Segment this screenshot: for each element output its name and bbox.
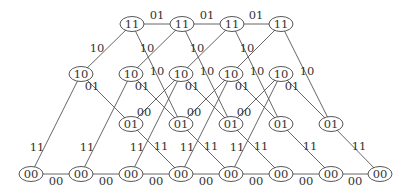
node-label: 01: [274, 117, 289, 131]
state-node-01: 01: [219, 117, 243, 132]
edge-label: 00: [99, 174, 114, 188]
edge-label: 01: [85, 79, 100, 93]
edge-label: 11: [130, 140, 145, 154]
edge-label: 11: [254, 139, 269, 153]
edge-label: 00: [137, 105, 152, 119]
state-node-00: 00: [19, 167, 43, 182]
state-node-10: 10: [169, 67, 193, 82]
state-node-00: 00: [368, 167, 392, 182]
state-node-01: 01: [119, 117, 143, 132]
state-node-10: 10: [69, 67, 93, 82]
state-node-11: 11: [220, 17, 244, 32]
node-label: 00: [74, 167, 89, 181]
edge-label: 00: [348, 174, 363, 188]
node-label: 11: [274, 17, 289, 31]
edge-label: 00: [237, 105, 252, 119]
state-node-00: 00: [219, 167, 243, 182]
edge-label: 00: [299, 174, 314, 188]
state-node-11: 11: [120, 17, 144, 32]
state-node-11: 11: [170, 17, 194, 32]
state-node-01: 01: [269, 117, 293, 132]
state-node-10: 10: [119, 67, 143, 82]
node-label: 00: [174, 167, 189, 181]
edge-label: 01: [185, 79, 200, 93]
edge-label: 11: [303, 139, 318, 153]
edge-label: 01: [150, 8, 165, 22]
edge-label: 11: [154, 139, 169, 153]
edge-label: 01: [235, 79, 250, 93]
edge-label: 00: [49, 174, 64, 188]
node-label: 11: [125, 17, 140, 31]
edge-label: 01: [135, 79, 150, 93]
edge-label: 01: [285, 79, 300, 93]
edge-label: 11: [230, 140, 245, 154]
state-node-10: 10: [269, 67, 293, 82]
state-node-00: 00: [69, 167, 93, 182]
edge-label: 10: [250, 64, 265, 78]
node-label: 00: [373, 167, 388, 181]
state-node-00: 00: [169, 167, 193, 182]
trellis-edge: [31, 74, 81, 174]
node-label: 10: [274, 67, 289, 81]
edge-label: 11: [180, 140, 195, 154]
edge-label: 10: [190, 41, 205, 55]
edge-label: 00: [199, 174, 214, 188]
node-label: 01: [324, 117, 339, 131]
node-label: 10: [224, 67, 239, 81]
state-node-00: 00: [119, 167, 143, 182]
state-node-00: 00: [319, 167, 343, 182]
edge-label: 00: [249, 174, 264, 188]
node-label: 01: [224, 117, 239, 131]
state-node-11: 11: [269, 17, 293, 32]
edge-label: 10: [240, 41, 255, 55]
node-label: 00: [324, 167, 339, 181]
node-label: 00: [224, 167, 239, 181]
edge-labels-layer: 0000000000000011111111111111111111010101…: [30, 8, 367, 188]
edge-label: 10: [200, 64, 215, 78]
node-label: 10: [74, 67, 89, 81]
node-label: 11: [225, 17, 240, 31]
edge-label: 11: [80, 140, 95, 154]
edge-label: 01: [249, 8, 264, 22]
node-label: 00: [124, 167, 139, 181]
node-label: 01: [174, 117, 189, 131]
edge-label: 10: [140, 41, 155, 55]
node-label: 10: [124, 67, 139, 81]
edge-label: 00: [149, 174, 164, 188]
node-label: 00: [274, 167, 289, 181]
edge-label: 10: [300, 64, 315, 78]
edge-label: 01: [200, 8, 215, 22]
state-node-01: 01: [319, 117, 343, 132]
edge-label: 11: [352, 139, 367, 153]
edge-label: 00: [187, 105, 202, 119]
node-label: 01: [124, 117, 139, 131]
node-label: 10: [174, 67, 189, 81]
node-label: 00: [24, 167, 39, 181]
edge-label: 10: [150, 64, 165, 78]
state-node-10: 10: [219, 67, 243, 82]
state-node-00: 00: [269, 167, 293, 182]
state-node-01: 01: [169, 117, 193, 132]
edge-label: 11: [30, 140, 45, 154]
trellis-diagram: 0000000000000011111111111111111111010101…: [0, 0, 412, 194]
node-label: 11: [175, 17, 190, 31]
edge-label: 10: [90, 41, 105, 55]
edge-label: 11: [204, 139, 219, 153]
